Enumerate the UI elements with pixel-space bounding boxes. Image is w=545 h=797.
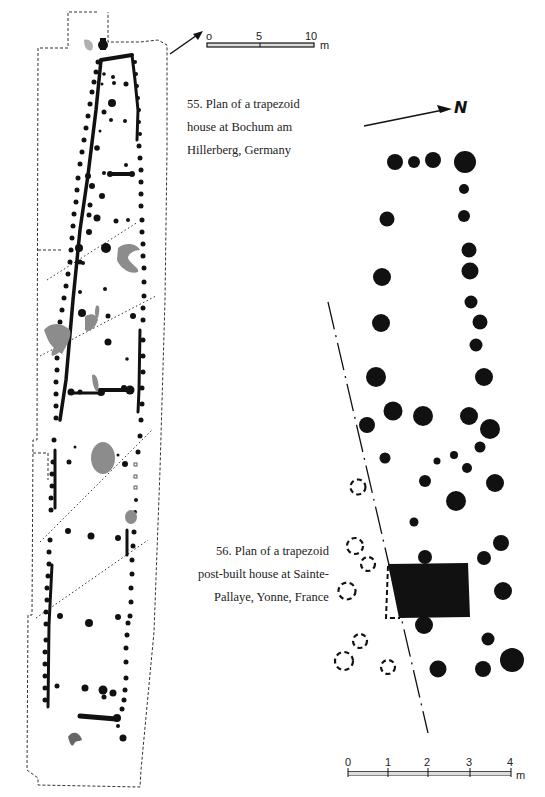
pit-rectangle [388, 563, 470, 618]
scale-tick-label: 0 [345, 756, 351, 768]
sainte-pallaye-plan: N [328, 98, 525, 781]
scale-unit-label: m [320, 39, 329, 51]
scale-tick-label: 1 [385, 756, 391, 768]
north-label: N [454, 98, 468, 117]
bochum-plan: o 5 10 m [27, 12, 329, 787]
scale-bar-56: 0 1 2 3 4 m [345, 756, 525, 781]
dash-dot-axis [328, 302, 428, 733]
open-post-holes [134, 463, 137, 489]
scale-unit-label: m [516, 769, 525, 781]
north-arrow-55-icon [170, 31, 203, 54]
plans-drawing: o 5 10 m N [0, 0, 545, 797]
entrance-feature [100, 38, 106, 50]
scale-tick-label: o [206, 30, 212, 42]
extension-boundary-mid [33, 453, 48, 480]
scale-tick-label: 10 [305, 30, 317, 42]
scale-tick-label: 3 [466, 756, 472, 768]
diagonal-trench-lines [36, 222, 156, 618]
scale-tick-label: 4 [507, 756, 513, 768]
scale-tick-label: 2 [424, 756, 430, 768]
conjectural-post-holes [335, 480, 395, 675]
north-arrow-56-icon: N [364, 98, 468, 126]
scale-bar-55: o 5 10 m [206, 30, 329, 51]
scale-tick-label: 5 [256, 30, 262, 42]
